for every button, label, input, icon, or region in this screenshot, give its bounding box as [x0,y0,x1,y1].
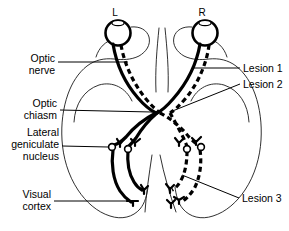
right-eye-dashed-tract [170,45,209,113]
left-temporal-arc [74,84,132,122]
label-lesion-3: Lesion 3 [242,192,282,204]
visual-pathway-diagram: L R Optic nerve Optic chiasm Lateral gen… [0,0,289,231]
right-temporal-arc [191,84,249,122]
label-visual-cortex-line2: cortex [22,200,51,212]
label-lgn-line2: geniculate [11,138,59,150]
label-visual-cortex-line1: Visual [23,188,51,200]
midline-fissure-upper [156,28,159,92]
lgn-node-right-inner [184,146,191,153]
eye-side-labels: L R [112,7,205,18]
left-cornea-icon [112,20,124,25]
visual-pathway-figure: L R Optic nerve Optic chiasm Lateral gen… [0,0,289,231]
right-cornea-icon [199,20,211,25]
lateral-geniculate-nodes [109,144,205,153]
label-lgn-line3: nucleus [23,150,59,162]
label-optic-chiasm-line2: chiasm [24,109,58,121]
label-optic-nerve-line1: Optic [30,52,55,64]
label-lesion-1: Lesion 1 [243,62,283,74]
right-optic-radiation-outer [183,150,201,201]
terminal-left-cortex-outer [127,201,138,206]
leader-optic-chiasm [60,110,152,112]
label-lesion-2: Lesion 2 [243,78,283,90]
label-optic-chiasm-line1: Optic [32,97,57,109]
brain-outline-group [62,27,262,218]
left-eye-label: L [112,7,118,18]
leader-lgn [62,146,108,147]
midline-fissure-lower-left [145,155,152,212]
left-text-labels: Optic nerve Optic chiasm Lateral genicul… [11,52,59,212]
left-optic-radiation-inner [128,150,142,190]
lgn-node-right-outer [198,144,205,151]
terminal-right-cortex-inner [166,184,174,193]
midline-fissure-lower-right [160,155,176,212]
right-eye-label: R [198,7,205,18]
lgn-node-left-inner [125,146,132,153]
left-hemisphere-outline [62,27,150,218]
eyes-group [106,20,218,45]
left-eye-solid-tract [113,44,156,113]
label-lgn-line1: Lateral [27,126,59,138]
terminal-right-lgn-a [175,138,184,146]
lgn-node-left-outer [109,144,116,151]
left-leader-lines [54,62,152,201]
lesion-text-labels: Lesion 1 Lesion 2 Lesion 3 [242,62,283,204]
midline-fissure-upper-right [165,28,168,92]
label-optic-nerve-line2: nerve [29,64,55,76]
